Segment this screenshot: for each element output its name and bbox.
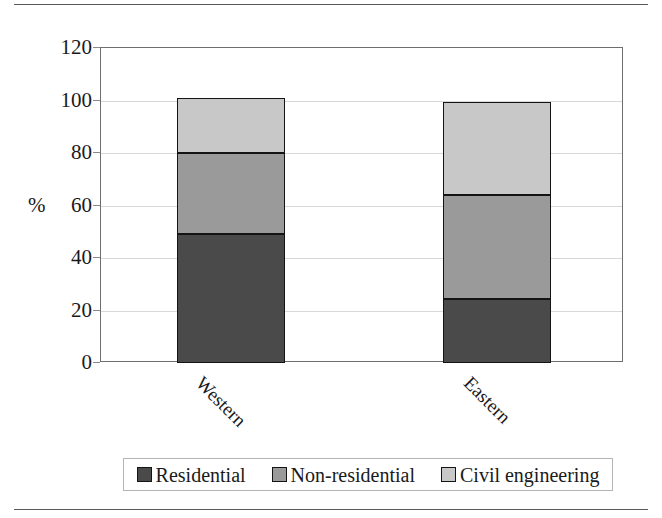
bar-segment-eastern-civil-engineering[interactable] bbox=[443, 102, 551, 195]
y-tick-mark-60 bbox=[93, 205, 100, 206]
bar-segment-western-residential[interactable] bbox=[177, 234, 285, 363]
legend-item-civil-engineering[interactable]: Civil engineering bbox=[441, 465, 599, 485]
x-axis-label-eastern: Eastern bbox=[461, 373, 515, 427]
bar-segment-western-civil-engineering[interactable] bbox=[177, 98, 285, 153]
bar-western[interactable] bbox=[177, 48, 285, 363]
stacked-bar-chart-figure: 120 100 80 60 40 20 0 % bbox=[0, 0, 662, 518]
legend-label-residential: Residential bbox=[156, 465, 246, 485]
y-tick-mark-120 bbox=[93, 47, 100, 48]
y-tick-mark-20 bbox=[93, 310, 100, 311]
legend-swatch-civil-engineering-icon bbox=[441, 467, 456, 482]
y-tick-label-0: 0 bbox=[36, 352, 92, 373]
bar-segment-western-non-residential[interactable] bbox=[177, 153, 285, 234]
plot-area bbox=[100, 47, 623, 362]
x-axis-label-western: Western bbox=[193, 373, 250, 430]
legend-item-residential[interactable]: Residential bbox=[137, 465, 246, 485]
bar-segment-eastern-residential[interactable] bbox=[443, 299, 551, 363]
y-tick-mark-0 bbox=[93, 362, 100, 363]
y-tick-label-120: 120 bbox=[36, 37, 92, 58]
y-tick-mark-80 bbox=[93, 152, 100, 153]
legend-item-non-residential[interactable]: Non-residential bbox=[272, 465, 415, 485]
y-tick-mark-40 bbox=[93, 257, 100, 258]
bar-eastern[interactable] bbox=[443, 48, 551, 363]
y-axis-title: % bbox=[28, 194, 46, 215]
legend-label-civil-engineering: Civil engineering bbox=[460, 465, 599, 485]
bar-segment-eastern-non-residential[interactable] bbox=[443, 195, 551, 299]
y-tick-label-80: 80 bbox=[36, 142, 92, 163]
legend-label-non-residential: Non-residential bbox=[291, 465, 415, 485]
y-tick-label-20: 20 bbox=[36, 299, 92, 320]
y-tick-label-100: 100 bbox=[36, 89, 92, 110]
y-tick-mark-100 bbox=[93, 100, 100, 101]
y-tick-label-40: 40 bbox=[36, 247, 92, 268]
chart-legend: Residential Non-residential Civil engine… bbox=[123, 458, 613, 491]
legend-swatch-residential-icon bbox=[137, 467, 152, 482]
legend-swatch-non-residential-icon bbox=[272, 467, 287, 482]
